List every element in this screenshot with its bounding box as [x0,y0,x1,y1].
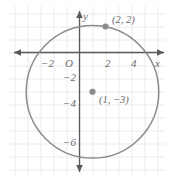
x-tick-label-2: 2 [105,58,111,69]
x-axis-name: x [155,58,160,69]
point-label-center: (1, −3) [99,95,129,106]
origin-label: O [65,58,73,69]
coordinate-grid-figure: −2 2 4 O −2 −4 −6 x y (2, 2) (1, −3) [0,0,174,186]
y-axis-name: y [83,11,88,22]
plot-canvas [0,0,174,186]
x-tick-label-4: 4 [131,58,137,69]
center-point-dot [89,89,95,95]
point-label-on-circle: (2, 2) [112,15,135,26]
circle-point-dot [102,23,108,29]
y-tick-label--4: −4 [63,98,76,109]
y-tick-label--6: −6 [63,137,76,148]
x-tick-label--2: −2 [41,58,54,69]
y-tick-label--2: −2 [63,72,76,83]
grid-background [9,6,165,175]
